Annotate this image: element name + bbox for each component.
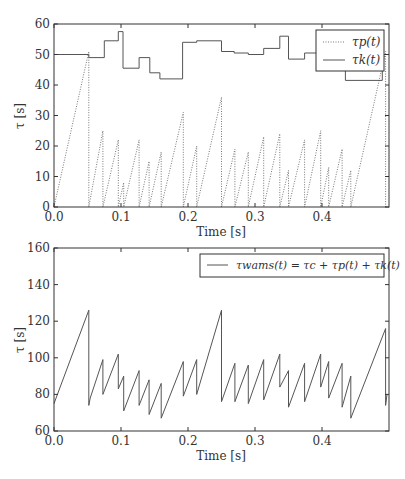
x-tick-label: 0.2 (178, 210, 197, 224)
bottom-plot: 6080100120140160 0.00.10.20.30.4 Time [s… (13, 241, 400, 463)
legend-tau-p-label: τp(t) (352, 35, 381, 49)
x-tick-label: 0.2 (178, 434, 197, 448)
y-tick-label: 160 (27, 241, 50, 255)
bottom-x-axis-label: Time [s] (196, 449, 246, 463)
top-plot: 0102030405060 0.00.10.20.30.4 Time [s] τ… (13, 17, 389, 239)
y-tick-label: 40 (35, 78, 50, 92)
y-tick-label: 140 (27, 278, 50, 292)
x-tick-label: 0.3 (245, 434, 264, 448)
bottom-legend: τwams(t) = τc + τp(t) + τk(t) (200, 254, 400, 277)
bottom-plot-series (54, 310, 387, 418)
y-tick-label: 20 (35, 139, 50, 153)
y-tick-label: 30 (35, 109, 50, 123)
bottom-series-line (54, 310, 387, 418)
y-tick-label: 60 (35, 17, 50, 31)
x-tick-label: 0.1 (111, 434, 130, 448)
y-tick-label: 10 (35, 170, 50, 184)
x-tick-label: 0.4 (312, 210, 331, 224)
bottom-x-ticks: 0.00.10.20.30.4 (44, 248, 331, 448)
figure: 0102030405060 0.00.10.20.30.4 Time [s] τ… (0, 0, 405, 479)
y-tick-label: 80 (35, 387, 50, 401)
x-tick-label: 0.0 (44, 434, 63, 448)
bottom-y-axis-label: τ [s] (13, 327, 27, 353)
x-tick-label: 0.3 (245, 210, 264, 224)
top-legend: τp(t) τk(t) (316, 30, 384, 71)
y-tick-label: 100 (27, 351, 50, 365)
y-tick-label: 120 (27, 314, 50, 328)
y-tick-label: 50 (35, 48, 50, 62)
x-tick-label: 0.1 (111, 210, 130, 224)
legend-tau-k-label: τk(t) (352, 53, 380, 67)
top-series-line (54, 52, 386, 208)
top-y-axis-label: τ [s] (13, 103, 27, 129)
legend-tau-wams-label: τwams(t) = τc + τp(t) + τk(t) (236, 259, 400, 272)
top-x-axis-label: Time [s] (196, 225, 246, 239)
x-tick-label: 0.0 (44, 210, 63, 224)
x-tick-label: 0.4 (312, 434, 331, 448)
